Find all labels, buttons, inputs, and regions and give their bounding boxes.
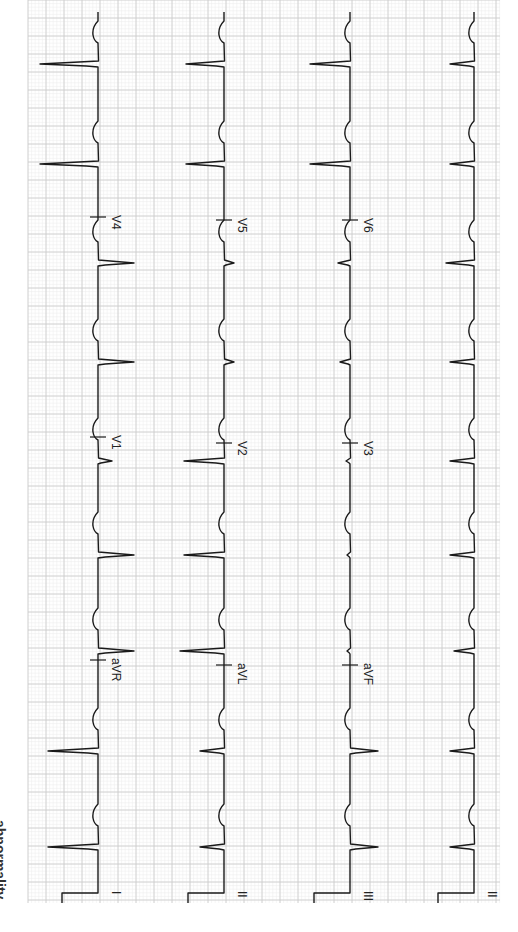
lead-label-v1: V1 — [109, 435, 123, 450]
lead-label-v4: V4 — [109, 215, 123, 230]
lead-label-ii: II — [485, 891, 499, 898]
lead-label-i: I — [109, 891, 123, 894]
lead-label-ii: II — [235, 891, 249, 898]
lead-label-v2: V2 — [235, 441, 249, 456]
lead-label-avl: aVL — [235, 663, 249, 685]
lead-label-avr: aVR — [109, 658, 123, 682]
ecg-chart: V4V1aVRIV5V2aVLIIV6V3aVFIIIII — [0, 0, 518, 932]
lead-label-v5: V5 — [235, 218, 249, 233]
ecg-trace-row-1 — [40, 12, 134, 903]
lead-label-v3: V3 — [361, 441, 375, 456]
ecg-trace-row-3 — [310, 12, 378, 903]
lead-label-v6: V6 — [361, 218, 375, 233]
lead-label-iii: III — [361, 891, 375, 901]
ecg-traces — [40, 12, 475, 903]
lead-label-avf: aVF — [361, 663, 375, 685]
